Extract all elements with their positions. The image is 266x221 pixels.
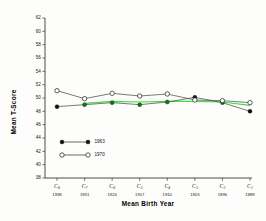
y-tick-label: 56: [36, 55, 42, 60]
x-tick-year-label: 1924: [107, 192, 117, 197]
chart-legend: 19631970: [60, 139, 105, 157]
x-tick-year-label: 1903: [190, 192, 200, 197]
y-tick-label: 40: [36, 162, 42, 167]
y-tick-label: 62: [36, 15, 42, 20]
y-tick-label: 48: [36, 109, 42, 114]
legend-marker-1963: [60, 140, 64, 144]
data-point-1970: [82, 96, 86, 100]
x-tick-cohort-label: C6: [109, 183, 115, 191]
x-tick-cohort-label: C2: [220, 183, 226, 191]
data-point-1970: [220, 98, 224, 102]
x-tick-year-label: 1889: [245, 192, 255, 197]
y-axis: 38404244464850525456586062: [36, 15, 45, 180]
x-tick-year-label: 1931: [80, 192, 90, 197]
x-tick-cohort-label: C3: [192, 183, 198, 191]
x-tick-cohort-label: C5: [137, 183, 143, 191]
data-point-1963: [83, 103, 87, 107]
chart-figure: 38404244464850525456586062 C81938C71931C…: [0, 0, 266, 221]
y-tick-label: 52: [36, 82, 42, 87]
x-tick-year-label: 1938: [52, 192, 62, 197]
data-point-1970: [110, 91, 114, 95]
y-tick-label: 46: [36, 122, 42, 127]
x-tick-cohort-label: C1: [247, 183, 253, 191]
legend-marker-1963: [86, 140, 90, 144]
y-tick-label: 44: [36, 135, 42, 140]
y-tick-label: 58: [36, 42, 42, 47]
legend-marker-1970: [86, 153, 90, 157]
y-tick-label: 54: [36, 69, 42, 74]
y-tick-label: 50: [36, 95, 42, 100]
data-point-1970: [138, 94, 142, 98]
data-point-1963: [110, 101, 114, 105]
legend-marker-1970: [60, 153, 64, 157]
x-tick-year-label: 1917: [135, 192, 145, 197]
data-point-1963: [165, 100, 169, 104]
y-tick-label: 60: [36, 29, 42, 34]
data-point-1963: [138, 103, 142, 107]
data-point-1970: [193, 98, 197, 102]
x-tick-year-label: 1896: [218, 192, 228, 197]
line-chart: 38404244464850525456586062 C81938C71931C…: [0, 0, 266, 221]
y-tick-label: 42: [36, 149, 42, 154]
data-point-1970: [165, 92, 169, 96]
x-axis: C81938C71931C61924C51917C41910C31903C218…: [45, 178, 255, 197]
legend-label-1963: 1963: [95, 139, 106, 144]
y-axis-title: Mean T-Score: [10, 89, 17, 134]
legend-label-1970: 1970: [95, 152, 106, 157]
data-point-1970: [248, 100, 252, 104]
x-axis-title: Mean Birth Year: [122, 200, 175, 207]
x-tick-cohort-label: C4: [164, 183, 170, 191]
y-tick-label: 38: [36, 175, 42, 180]
data-series-group: [55, 88, 252, 113]
x-tick-year-label: 1910: [163, 192, 173, 197]
x-tick-cohort-label: C8: [54, 183, 60, 191]
data-point-1970: [55, 88, 59, 92]
x-tick-cohort-label: C7: [82, 183, 88, 191]
data-point-1963: [55, 105, 59, 109]
data-point-1963: [248, 109, 252, 113]
